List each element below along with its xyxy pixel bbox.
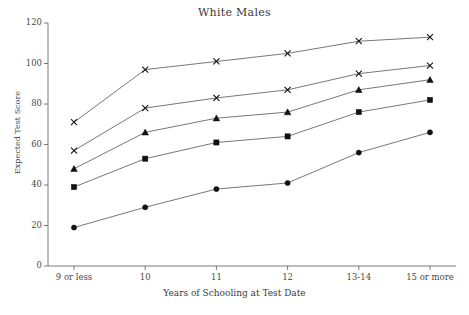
data-point-triangle-marker xyxy=(71,166,78,172)
data-point-square-marker xyxy=(356,110,361,115)
plot-canvas xyxy=(0,0,469,315)
series-line xyxy=(74,100,430,187)
series-series-2 xyxy=(71,63,433,154)
data-point-triangle-marker xyxy=(427,76,434,82)
data-point-cross-marker xyxy=(71,119,77,125)
series-series-3 xyxy=(71,76,434,171)
series-series-4 xyxy=(71,97,432,189)
data-point-circle-marker xyxy=(427,130,432,135)
data-point-circle-marker xyxy=(143,205,148,210)
series-series-1 xyxy=(71,34,433,125)
data-point-circle-marker xyxy=(356,150,361,155)
data-point-square-marker xyxy=(143,156,148,161)
series-line xyxy=(74,132,430,227)
series-series-5 xyxy=(71,130,432,230)
data-point-square-marker xyxy=(214,140,219,145)
data-point-circle-marker xyxy=(214,186,219,191)
series-line xyxy=(74,66,430,151)
chart-figure: White Males Expected Test Score 02040608… xyxy=(0,0,469,315)
data-point-cross-marker xyxy=(71,148,77,154)
data-point-triangle-marker xyxy=(284,109,291,115)
data-point-circle-marker xyxy=(285,180,290,185)
data-point-square-marker xyxy=(285,134,290,139)
data-point-square-marker xyxy=(427,97,432,102)
data-point-square-marker xyxy=(71,184,76,189)
series-line xyxy=(74,80,430,169)
data-point-circle-marker xyxy=(71,225,76,230)
